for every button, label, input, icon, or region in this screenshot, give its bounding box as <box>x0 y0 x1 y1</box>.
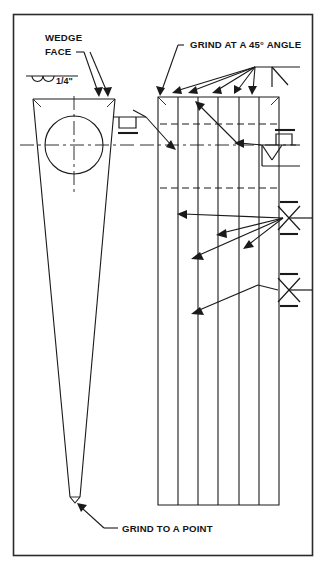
wedge-front-view <box>20 96 135 503</box>
right-weld-v-right <box>272 145 282 160</box>
square-groove-weld-icon-left <box>113 110 176 150</box>
finish-scallop-2 <box>43 76 54 82</box>
double-v-groove-weld-icon-lower <box>191 274 312 315</box>
square-groove-weld-icon-right <box>195 101 300 166</box>
fan-arrowhead-3 <box>212 86 222 94</box>
grind-to-point-label: GRIND TO A POINT <box>122 523 213 534</box>
right-weld-groove-box <box>276 134 292 145</box>
engineering-drawing-svg: 1/4" WEDGE FACE GRIND AT A 45° ANGLE <box>0 0 326 569</box>
grind-45-arrowhead-left <box>156 86 165 96</box>
grind-to-point-leader-group <box>77 503 118 528</box>
wedge-face-arrowhead-1 <box>94 87 103 97</box>
wedge-face-leader-1 <box>84 52 98 92</box>
wedge-right-taper-edge <box>80 99 115 497</box>
grind-45-label: GRIND AT A 45° ANGLE <box>190 39 302 50</box>
wedge-ground-tip <box>70 497 80 503</box>
bevel-weld-icon <box>255 67 300 87</box>
bevel-diagonal-leg <box>272 67 288 85</box>
grind-45-leader-line <box>162 45 178 90</box>
wedge-face-leader-group <box>76 52 112 97</box>
left-weld-groove-box <box>119 117 136 128</box>
wedge-face-leader-2 <box>90 52 107 92</box>
left-weld-leader-up <box>133 110 146 117</box>
side-chamfer-top-left <box>158 97 166 105</box>
right-weld-v-left <box>262 145 272 160</box>
drawing-border-frame <box>14 15 313 556</box>
lower-x-leader-line <box>197 285 258 311</box>
side-chamfer-top-right <box>271 97 279 105</box>
fan-leader-1 <box>176 67 255 91</box>
wedge-chamfer-top-right <box>107 99 115 107</box>
grind-point-leader-line <box>82 508 104 528</box>
fan-arrowhead-1 <box>172 86 182 94</box>
surface-finish-label: 1/4" <box>56 76 73 86</box>
wedge-face-arrowhead-2 <box>103 87 112 97</box>
fan-arrowhead-5 <box>248 86 257 95</box>
technical-drawing-canvas: 1/4" WEDGE FACE GRIND AT A 45° ANGLE <box>0 0 326 569</box>
wedge-face-label-line1: WEDGE <box>45 32 83 43</box>
double-v-groove-weld-icon-upper <box>177 202 312 260</box>
left-weld-leader-line <box>146 117 172 146</box>
lower-x-leader-stub <box>258 285 278 290</box>
wedge-left-taper-edge <box>33 99 70 497</box>
upper-x-leader-4 <box>197 218 283 256</box>
wedge-chamfer-top-left <box>33 99 41 107</box>
wedge-face-label-line2: FACE <box>45 46 72 57</box>
finish-scallop-1 <box>32 76 43 82</box>
grind-45-leader-fan <box>172 67 257 95</box>
